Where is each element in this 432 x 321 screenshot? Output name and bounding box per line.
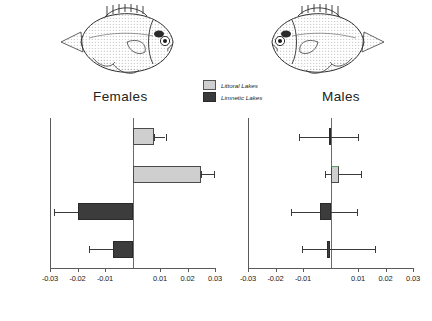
error-bar-cap (54, 209, 55, 216)
panel-left-spine (248, 118, 249, 268)
x-axis-tick (386, 268, 387, 272)
x-axis-tick-label: 0.02 (181, 274, 195, 283)
x-axis-tick (303, 268, 304, 272)
error-bar-cap (361, 171, 362, 178)
legend-item-littoral: Littoral Lakes (203, 80, 262, 90)
x-axis-tick (358, 268, 359, 272)
bar-green[interactable] (78, 203, 133, 220)
x-axis-tick (188, 268, 189, 272)
panel-title-males: Males (322, 89, 360, 104)
error-bar-line (154, 137, 166, 138)
error-bar-cap (302, 246, 303, 253)
legend-label-littoral: Littoral Lakes (221, 82, 258, 89)
figure-root: Females Males Littoral Lakes Limnetic La… (0, 0, 432, 321)
x-axis-tick-label: 0.03 (406, 274, 420, 283)
legend-label-limnetic: Limnetic Lakes (221, 94, 262, 101)
x-axis-tick-label: -0.01 (97, 274, 113, 283)
x-axis-line (50, 268, 215, 269)
x-axis-tick (50, 268, 51, 272)
x-axis-tick (105, 268, 106, 272)
error-bar-cap (166, 134, 167, 141)
error-bar-cap (154, 134, 155, 141)
legend-swatch-littoral (203, 80, 216, 90)
legend: Littoral Lakes Limnetic Lakes (203, 80, 262, 104)
x-axis-tick-label: -0.02 (267, 274, 283, 283)
error-bar-cap (291, 209, 292, 216)
error-bar-cap (357, 209, 358, 216)
x-axis-tick-label: -0.03 (42, 274, 58, 283)
male-sunfish-illustration (260, 2, 390, 86)
x-axis-tick (413, 268, 414, 272)
error-bar-cap (325, 171, 326, 178)
bar-ottawa[interactable] (331, 166, 339, 183)
error-bar-cap (214, 171, 215, 178)
chart-panel-males: -0.03-0.02-0.010.010.020.03 (248, 118, 413, 268)
x-axis-tick (276, 268, 277, 272)
x-axis-tick-label: -0.02 (69, 274, 85, 283)
legend-swatch-limnetic (203, 92, 216, 102)
error-bar-line (201, 174, 213, 175)
female-sunfish-illustration (55, 2, 185, 86)
bar-horn[interactable] (327, 241, 330, 258)
x-axis-tick-label: -0.03 (240, 274, 256, 283)
x-axis-tick (160, 268, 161, 272)
panel-title-females: Females (93, 89, 148, 104)
x-axis-tick (248, 268, 249, 272)
error-bar-line (302, 249, 375, 250)
error-bar-cap (358, 134, 359, 141)
bar-five[interactable] (329, 128, 331, 145)
x-axis-tick-label: 0.02 (379, 274, 393, 283)
bar-horn[interactable] (113, 241, 132, 258)
error-bar-cap (201, 171, 202, 178)
bar-green[interactable] (320, 203, 331, 220)
error-bar-cap (299, 134, 300, 141)
error-bar-line (54, 212, 77, 213)
panel-left-spine (50, 118, 51, 268)
error-bar-cap (89, 246, 90, 253)
chart-panel-females: -0.03-0.02-0.010.010.020.03 (50, 118, 215, 268)
bar-ottawa[interactable] (133, 166, 202, 183)
x-axis-tick (78, 268, 79, 272)
bar-five[interactable] (133, 128, 154, 145)
x-axis-tick (215, 268, 216, 272)
x-axis-line (248, 268, 413, 269)
x-axis-tick-label: -0.01 (295, 274, 311, 283)
legend-item-limnetic: Limnetic Lakes (203, 92, 262, 102)
x-axis-tick-label: 0.01 (153, 274, 167, 283)
x-axis-tick-label: 0.03 (208, 274, 222, 283)
error-bar-line (89, 249, 114, 250)
error-bar-cap (375, 246, 376, 253)
x-axis-tick-label: 0.01 (351, 274, 365, 283)
